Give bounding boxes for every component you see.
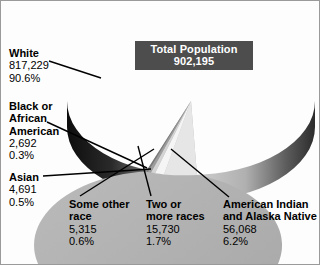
label-asian-name: Asian: [9, 171, 39, 183]
label-two-or-more-races-name-line2: more races: [146, 210, 205, 222]
label-american-indian-percent: 6.2%: [223, 235, 317, 247]
label-two-or-more-races-name-line1: Two or: [146, 198, 205, 210]
label-black-name-line3: American: [9, 125, 59, 137]
label-black-name-line1: Black or: [9, 100, 59, 112]
total-population-box: Total Population 902,195: [135, 41, 253, 70]
label-white: White 817,229 90.6%: [9, 47, 49, 84]
label-black-value: 2,692: [9, 137, 59, 149]
label-american-indian-value: 56,068: [223, 223, 317, 235]
label-asian: Asian 4,691 0.5%: [9, 171, 39, 208]
total-population-label: Total Population: [151, 44, 238, 56]
label-two-or-more-races-percent: 1.7%: [146, 235, 205, 247]
label-asian-value: 4,691: [9, 183, 39, 195]
label-two-or-more-races-value: 15,730: [146, 223, 205, 235]
label-black-or-african-american: Black or African American 2,692 0.3%: [9, 100, 59, 162]
label-white-percent: 90.6%: [9, 72, 49, 84]
label-black-name-line2: African: [9, 112, 59, 124]
label-some-other-race: Some other race 5,315 0.6%: [69, 198, 130, 247]
label-two-or-more-races: Two or more races 15,730 1.7%: [146, 198, 205, 247]
label-black-percent: 0.3%: [9, 149, 59, 161]
total-population-value: 902,195: [174, 56, 214, 68]
label-asian-percent: 0.5%: [9, 196, 39, 208]
label-white-name: White: [9, 47, 49, 59]
label-american-indian-name-line1: American Indian: [223, 198, 317, 210]
label-white-value: 817,229: [9, 59, 49, 71]
label-american-indian-alaska-native: American Indian and Alaska Native 56,068…: [223, 198, 317, 247]
label-some-other-race-value: 5,315: [69, 223, 130, 235]
label-american-indian-name-line2: and Alaska Native: [223, 210, 317, 222]
label-some-other-race-name-line2: race: [69, 210, 130, 222]
chart-frame: Total Population 902,195 White 817,229 9…: [0, 0, 320, 265]
label-some-other-race-name-line1: Some other: [69, 198, 130, 210]
label-some-other-race-percent: 0.6%: [69, 235, 130, 247]
leader-line-white: [49, 61, 101, 78]
